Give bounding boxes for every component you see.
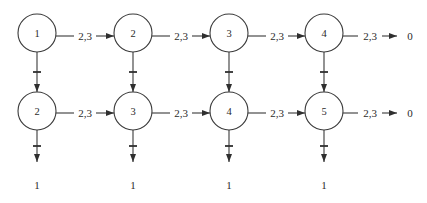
edge-label: 2,3 xyxy=(174,30,188,42)
edge-label: 2,3 xyxy=(78,107,92,119)
edge-label: 2,3 xyxy=(270,107,284,119)
bottom-row: 2 3 4 5 2,3 2,3 2,3 2,3 0 xyxy=(18,92,413,130)
transition-edge: 2,3 xyxy=(152,30,210,42)
node-label: 3 xyxy=(226,28,231,39)
transition-edge: 2,3 xyxy=(152,107,210,119)
top-row: 1 2 3 4 2,3 2,3 2,3 2,3 0 xyxy=(18,14,413,52)
transition-edge: 2,3 xyxy=(248,30,305,42)
transition-edge: 2,3 xyxy=(56,107,114,119)
sink-arrow xyxy=(320,130,328,162)
node-label: 2 xyxy=(34,106,39,117)
edge-label: 2,3 xyxy=(363,30,377,42)
transition-edge: 2,3 xyxy=(56,30,114,42)
edge-label: 2,3 xyxy=(174,107,188,119)
sink-label: 1 xyxy=(34,179,40,191)
terminal-edge: 2,3 0 xyxy=(343,107,413,119)
node-label: 1 xyxy=(34,28,39,39)
node-label: 4 xyxy=(321,28,327,39)
sink-label: 1 xyxy=(226,179,232,191)
sink-arrow xyxy=(129,130,137,162)
sink-label: 1 xyxy=(130,179,136,191)
vertical-transition-edges xyxy=(33,52,328,92)
terminal-label: 0 xyxy=(407,107,413,119)
terminal-edge: 2,3 0 xyxy=(343,30,413,42)
vertical-transition-edge xyxy=(33,52,41,92)
edge-label: 2,3 xyxy=(78,30,92,42)
diagram-canvas: 1 2 3 4 2,3 2,3 2,3 2,3 0 xyxy=(0,0,427,203)
figure-stage: 1 2 3 4 2,3 2,3 2,3 2,3 0 xyxy=(0,0,427,203)
terminal-label: 0 xyxy=(407,30,413,42)
edge-label: 2,3 xyxy=(363,107,377,119)
transition-edge: 2,3 xyxy=(248,107,305,119)
sink-arrows: 1 1 1 1 xyxy=(33,130,328,191)
node-label: 4 xyxy=(226,106,232,117)
sink-arrow xyxy=(225,130,233,162)
node-label: 3 xyxy=(130,106,135,117)
node-label: 5 xyxy=(321,106,326,117)
vertical-transition-edge xyxy=(129,52,137,92)
sink-arrow xyxy=(33,130,41,162)
vertical-transition-edge xyxy=(225,52,233,92)
node-label: 2 xyxy=(130,28,135,39)
sink-label: 1 xyxy=(321,179,327,191)
vertical-transition-edge xyxy=(320,52,328,92)
edge-label: 2,3 xyxy=(270,30,284,42)
